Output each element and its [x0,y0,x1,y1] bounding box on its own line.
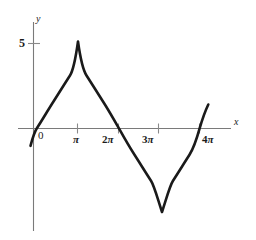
pi-symbol: π [148,133,154,145]
pi-symbol: π [73,133,79,145]
y-axis-label: y [36,14,40,24]
pi-symbol: π [208,133,214,145]
x-tick-label-pi: π [73,134,79,145]
plot-canvas [0,0,256,240]
x-tick-label-2pi: 2π [102,134,114,145]
graph-figure: y x 5 0 π 2π 3π 4π [0,0,256,240]
sine-curve [31,42,209,213]
x-tick-label-3pi: 3π [142,134,154,145]
x-tick-label-4pi: 4π [202,134,214,145]
x-tick-label-origin: 0 [38,130,44,141]
x-axis-label: x [234,117,238,127]
y-tick-label-5: 5 [19,37,25,49]
pi-symbol: π [108,133,114,145]
